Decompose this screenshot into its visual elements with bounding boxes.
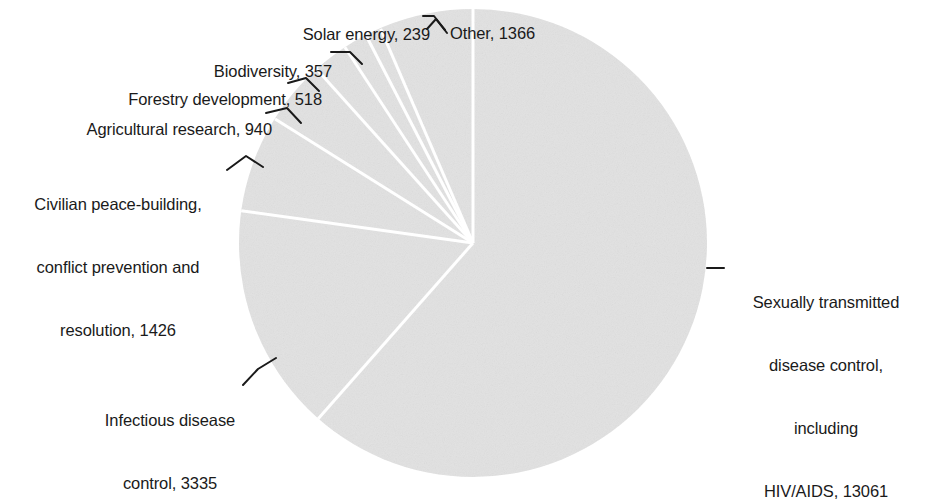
- slice-label-sexually-line2: disease control,: [728, 355, 924, 376]
- slice-label-civilian-line3: resolution, 1426: [0, 320, 236, 341]
- slice-label-infectious-line2: control, 3335: [70, 473, 270, 494]
- slice-label-sexually-line4: HIV/AIDS, 13061: [728, 481, 924, 502]
- slice-label-other: Other, 1366: [432, 2, 562, 65]
- slice-label-other-text: Other, 1366: [450, 24, 535, 42]
- slice-label-infectious-disease: Infectious disease control, 3335: [70, 368, 270, 503]
- slice-label-sexually-line1: Sexually transmitted: [728, 292, 924, 313]
- slice-label-agricultural-research-text: Agricultural research, 940: [87, 120, 272, 138]
- slice-label-civilian-line1: Civilian peace-building,: [0, 194, 236, 215]
- slice-label-civilian-line2: conflict prevention and: [0, 257, 236, 278]
- slice-label-infectious-line1: Infectious disease: [70, 410, 270, 431]
- slice-label-sexually-line3: including: [728, 418, 924, 439]
- slice-label-sexually-transmitted: Sexually transmitted disease control, in…: [728, 250, 924, 503]
- slice-label-civilian-peace-building: Civilian peace-building, conflict preven…: [0, 152, 236, 383]
